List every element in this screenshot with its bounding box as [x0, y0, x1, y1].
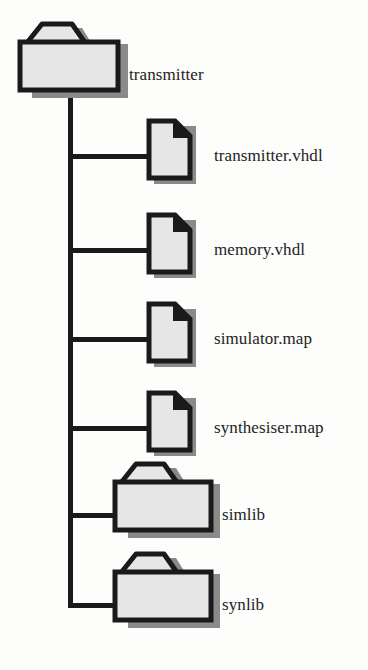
diagram-canvas: transmitter transmitter.vhdl memory.vhdl… [0, 0, 368, 670]
branch-line-2 [68, 248, 150, 253]
file-body [149, 215, 190, 272]
branch-line-5 [68, 513, 118, 518]
file-body [149, 393, 190, 450]
branch-line-1 [68, 154, 150, 159]
branch-line-6 [68, 603, 118, 608]
tree-graphic [0, 0, 368, 670]
folder-body [20, 42, 118, 90]
label-root-transmitter: transmitter [129, 65, 204, 85]
branch-line-4 [68, 426, 150, 431]
folder-body [115, 482, 211, 530]
folder-body [115, 572, 211, 620]
label-folder-synlib: synlib [222, 595, 264, 615]
node-file-memory-vhdl[interactable] [149, 215, 196, 278]
file-body [149, 304, 190, 361]
node-folder-synlib[interactable] [115, 554, 220, 628]
node-file-transmitter-vhdl[interactable] [149, 121, 196, 184]
branch-line-3 [68, 337, 150, 342]
trunk-line [68, 88, 73, 608]
label-folder-simlib: simlib [222, 505, 265, 525]
node-file-simulator-map[interactable] [149, 304, 196, 367]
node-root-transmitter[interactable] [20, 24, 128, 98]
label-file-memory-vhdl: memory.vhdl [214, 240, 305, 260]
node-folder-simlib[interactable] [115, 464, 220, 538]
label-file-simulator-map: simulator.map [214, 329, 312, 349]
file-body [149, 121, 190, 178]
node-file-synthesiser-map[interactable] [149, 393, 196, 456]
label-file-synthesiser-map: synthesiser.map [214, 418, 324, 438]
label-file-transmitter-vhdl: transmitter.vhdl [214, 146, 323, 166]
